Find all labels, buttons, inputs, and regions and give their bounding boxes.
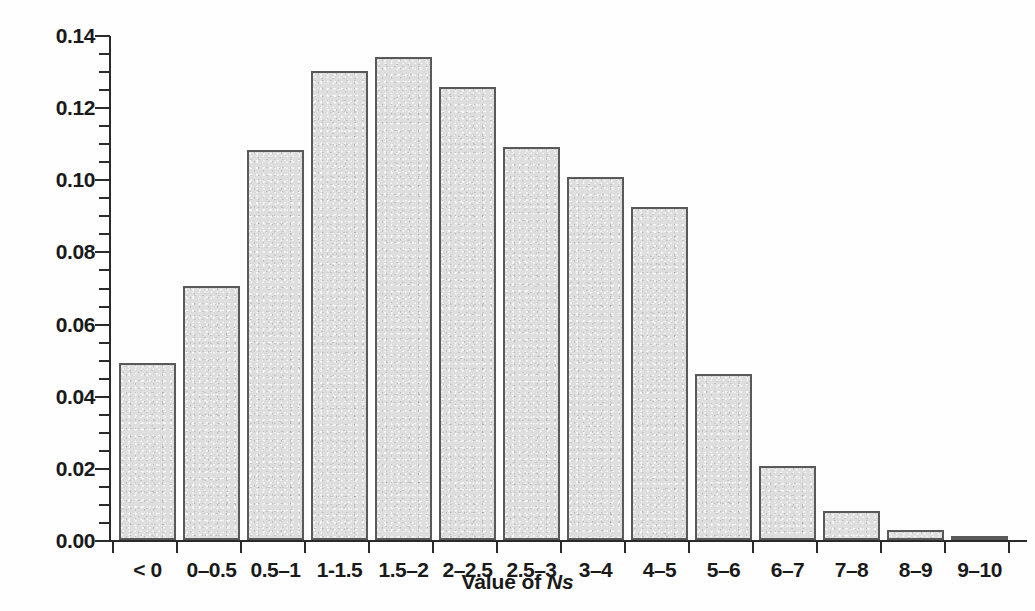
y-tick-label: 0.04 [56, 385, 95, 409]
bar-chart-figure: Proportion of fixations 0.000.020.040.06… [0, 0, 1035, 611]
y-tick-minor [99, 215, 110, 217]
x-tick [176, 540, 178, 553]
y-tick-minor [99, 71, 110, 73]
y-tick-minor [99, 450, 110, 452]
y-tick-minor [99, 306, 110, 308]
bar [439, 87, 496, 540]
y-tick-label: 0.08 [56, 240, 95, 264]
y-tick-major [95, 540, 110, 542]
y-tick-label: 0.14 [56, 24, 95, 48]
bar [311, 71, 368, 540]
x-tick [944, 540, 946, 553]
bar [631, 207, 688, 540]
y-tick-major [95, 179, 110, 181]
y-tick-minor [99, 197, 110, 199]
bar [695, 374, 752, 540]
plot-area: 0.000.020.040.060.080.100.120.14 < 00–0.… [117, 36, 1027, 541]
y-tick-label: 0.00 [56, 529, 95, 553]
bar [503, 147, 560, 540]
x-tick [304, 540, 306, 553]
y-tick-minor [99, 53, 110, 55]
y-tick-minor [99, 522, 110, 524]
y-tick-minor [99, 378, 110, 380]
bar [567, 177, 624, 540]
y-tick-minor [99, 269, 110, 271]
x-tick [752, 540, 754, 553]
y-tick-minor [99, 486, 110, 488]
y-tick-major [95, 35, 110, 37]
bar [823, 511, 880, 540]
x-tick [240, 540, 242, 553]
x-tick [688, 540, 690, 553]
y-tick-minor [99, 233, 110, 235]
y-tick-minor [99, 432, 110, 434]
y-tick-label: 0.12 [56, 96, 95, 120]
x-axis-title: Value of Ns [0, 570, 1035, 594]
x-axis-title-prefix: Value of [461, 570, 546, 593]
y-tick-minor [99, 360, 110, 362]
y-tick-major [95, 251, 110, 253]
x-tick [560, 540, 562, 553]
bar [951, 536, 1008, 540]
bar [759, 466, 816, 540]
y-tick-major [95, 324, 110, 326]
y-tick-minor [99, 414, 110, 416]
bar [375, 57, 432, 540]
y-tick-minor [99, 288, 110, 290]
y-tick-major [95, 468, 110, 470]
y-tick-label: 0.06 [56, 313, 95, 337]
x-tick [496, 540, 498, 553]
y-tick-major [95, 396, 110, 398]
x-tick [1008, 540, 1010, 553]
x-tick [112, 540, 114, 553]
y-tick-minor [99, 143, 110, 145]
y-tick-label: 0.02 [56, 457, 95, 481]
y-tick-minor [99, 504, 110, 506]
x-tick [624, 540, 626, 553]
x-tick [816, 540, 818, 553]
y-tick-minor [99, 125, 110, 127]
x-axis-title-symbol: Ns [547, 570, 574, 593]
bar [247, 150, 304, 540]
y-tick-minor [99, 89, 110, 91]
y-tick-major [95, 107, 110, 109]
x-tick [880, 540, 882, 553]
x-tick [368, 540, 370, 553]
y-tick-minor [99, 342, 110, 344]
bar [887, 530, 944, 540]
bar [183, 286, 240, 540]
bar-series [117, 36, 1027, 541]
x-tick [432, 540, 434, 553]
y-tick-label: 0.10 [56, 168, 95, 192]
y-tick-minor [99, 161, 110, 163]
bar [119, 363, 176, 540]
